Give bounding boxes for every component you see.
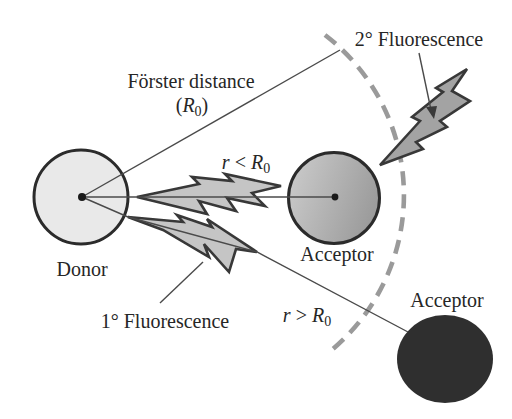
r0-symbol: R bbox=[311, 304, 324, 326]
r0-symbol: R bbox=[181, 94, 194, 116]
r0-subscript: 0 bbox=[195, 104, 202, 119]
less-than-sign: < bbox=[235, 151, 246, 173]
forster-r0-label: (R0) bbox=[176, 94, 209, 119]
r0-subscript: 0 bbox=[263, 161, 270, 176]
r0-symbol: R bbox=[250, 151, 263, 173]
primary-fluorescence-label: 1° Fluorescence bbox=[101, 310, 230, 332]
r-variable: r bbox=[222, 151, 230, 173]
acceptor-far-label: Acceptor bbox=[410, 289, 484, 312]
fret-diagram-canvas: Förster distance (R0) 2° Fluorescence r<… bbox=[0, 0, 512, 419]
r-less-than-r0-label: r<R0 bbox=[222, 151, 270, 176]
r-greater-than-r0-label: r>R0 bbox=[283, 304, 331, 329]
r0-paren-close: ) bbox=[202, 94, 209, 117]
donor-center-dot bbox=[78, 193, 86, 201]
acceptor-near-label: Acceptor bbox=[300, 243, 374, 266]
fret-diagram-figure: Förster distance (R0) 2° Fluorescence r<… bbox=[0, 0, 512, 419]
donor-label: Donor bbox=[56, 258, 107, 280]
greater-than-sign: > bbox=[296, 304, 307, 326]
primary-fluorescence-bolt-icon bbox=[128, 215, 257, 272]
acceptor-far-circle bbox=[397, 315, 493, 403]
acceptor-center-dot bbox=[332, 194, 339, 201]
secondary-fluorescence-label: 2° Fluorescence bbox=[355, 28, 484, 50]
secondary-fluorescence-pointer-line bbox=[419, 53, 431, 110]
primary-fluorescence-pointer-line bbox=[160, 262, 203, 303]
r0-subscript: 0 bbox=[324, 314, 331, 329]
r-variable: r bbox=[283, 304, 291, 326]
energy-transfer-bolt-icon bbox=[137, 174, 281, 214]
forster-distance-label: Förster distance bbox=[127, 70, 254, 92]
